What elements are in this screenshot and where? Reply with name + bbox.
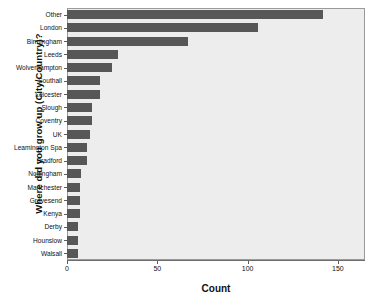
y-axis-tick-label: UK: [0, 130, 62, 139]
bar: [67, 222, 78, 231]
bar-row: [67, 116, 365, 125]
bar-chart: Where did you grow up (City/Country)? Ot…: [0, 0, 371, 302]
bar-row: [67, 103, 365, 112]
y-axis-tick-label: Coventry: [0, 116, 62, 125]
y-axis-tick-label: Bradford: [0, 156, 62, 165]
y-axis-tick-label: Wolverhampton: [0, 63, 62, 72]
y-axis-tick: [64, 161, 67, 162]
bar: [67, 50, 118, 59]
y-axis-tick: [64, 214, 67, 215]
bar: [67, 196, 80, 205]
y-axis-tick-label: Kenya: [0, 209, 62, 218]
bar-row: [67, 236, 365, 245]
y-axis-tick-label: Hounslow: [0, 236, 62, 245]
x-axis-tick-label: 0: [47, 265, 87, 272]
bar: [67, 183, 80, 192]
y-axis-tick: [64, 253, 67, 254]
bar-row: [67, 63, 365, 72]
y-axis-tick-label: Gravesend: [0, 196, 62, 205]
x-axis-tick-label: 150: [318, 265, 358, 272]
y-axis-tick-label: Slough: [0, 103, 62, 112]
bar-row: [67, 209, 365, 218]
bar: [67, 76, 100, 85]
y-axis-tick-label: Manchester: [0, 183, 62, 192]
y-axis-tick: [64, 121, 67, 122]
bar-row: [67, 130, 365, 139]
bar-row: [67, 249, 365, 258]
y-axis-tick-label: Southall: [0, 76, 62, 85]
y-axis-tick-label: Birmingham: [0, 37, 62, 46]
y-axis-tick: [64, 174, 67, 175]
y-axis-tick-label: Walsall: [0, 249, 62, 258]
y-axis-tick: [64, 54, 67, 55]
y-axis-tick: [64, 68, 67, 69]
y-axis-tick-label: Derby: [0, 222, 62, 231]
x-axis-tick-label: 50: [137, 265, 177, 272]
bar: [67, 116, 92, 125]
bar: [67, 37, 188, 46]
y-axis-tick: [64, 187, 67, 188]
bar: [67, 169, 81, 178]
bar: [67, 10, 323, 19]
y-axis-tick: [64, 81, 67, 82]
y-axis-tick: [64, 134, 67, 135]
bar-row: [67, 37, 365, 46]
bar-row: [67, 222, 365, 231]
x-axis-tick-label: 100: [228, 265, 268, 272]
bar-row: [67, 23, 365, 32]
bar: [67, 156, 87, 165]
bar: [67, 63, 112, 72]
bar-row: [67, 156, 365, 165]
y-axis-tick: [64, 28, 67, 29]
bar: [67, 143, 87, 152]
y-axis-tick-label: Nottingham: [0, 169, 62, 178]
x-axis-title: Count: [67, 283, 365, 294]
bar-row: [67, 169, 365, 178]
y-axis-tick-label: Other: [0, 10, 62, 19]
y-axis-tick: [64, 41, 67, 42]
y-axis-tick: [64, 240, 67, 241]
bar: [67, 90, 100, 99]
y-axis-tick: [64, 94, 67, 95]
y-axis-tick-label: London: [0, 23, 62, 32]
bar: [67, 236, 78, 245]
bar: [67, 130, 90, 139]
y-axis-tick: [64, 107, 67, 108]
y-axis-tick: [64, 147, 67, 148]
bar: [67, 103, 92, 112]
y-axis-tick: [64, 227, 67, 228]
bar-row: [67, 196, 365, 205]
bar-row: [67, 10, 365, 19]
bar-row: [67, 90, 365, 99]
bar-row: [67, 183, 365, 192]
y-axis-tick: [64, 15, 67, 16]
bar: [67, 209, 80, 218]
bar-row: [67, 50, 365, 59]
y-axis-tick-label: Leicester: [0, 90, 62, 99]
y-axis-tick: [64, 200, 67, 201]
bar-row: [67, 143, 365, 152]
x-axis-line: [67, 260, 365, 261]
y-axis-tick-label: Leeds: [0, 50, 62, 59]
bar: [67, 23, 258, 32]
bar: [67, 249, 78, 258]
y-axis-tick-label: Leamington Spa: [0, 143, 62, 152]
bar-row: [67, 76, 365, 85]
